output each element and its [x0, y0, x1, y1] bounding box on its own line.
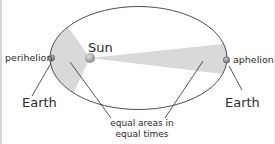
earth-right-leader: [229, 66, 242, 90]
equal-areas-line2: equal times: [106, 129, 178, 140]
earth-aphelion-icon: [223, 57, 229, 63]
equal-areas-leader-left: [70, 62, 111, 118]
equal-areas-leader-right: [165, 61, 203, 118]
earth-left-leader: [32, 63, 51, 96]
equal-areas-label: equal areas in equal times: [106, 118, 178, 140]
equal-areas-line1: equal areas in: [106, 118, 178, 129]
earth-left-label: Earth: [22, 96, 57, 109]
sun-label: Sun: [88, 41, 113, 54]
aphelion-label: aphelion: [233, 55, 274, 65]
earth-right-label: Earth: [225, 96, 260, 109]
perihelion-label: perihelion: [5, 53, 52, 63]
